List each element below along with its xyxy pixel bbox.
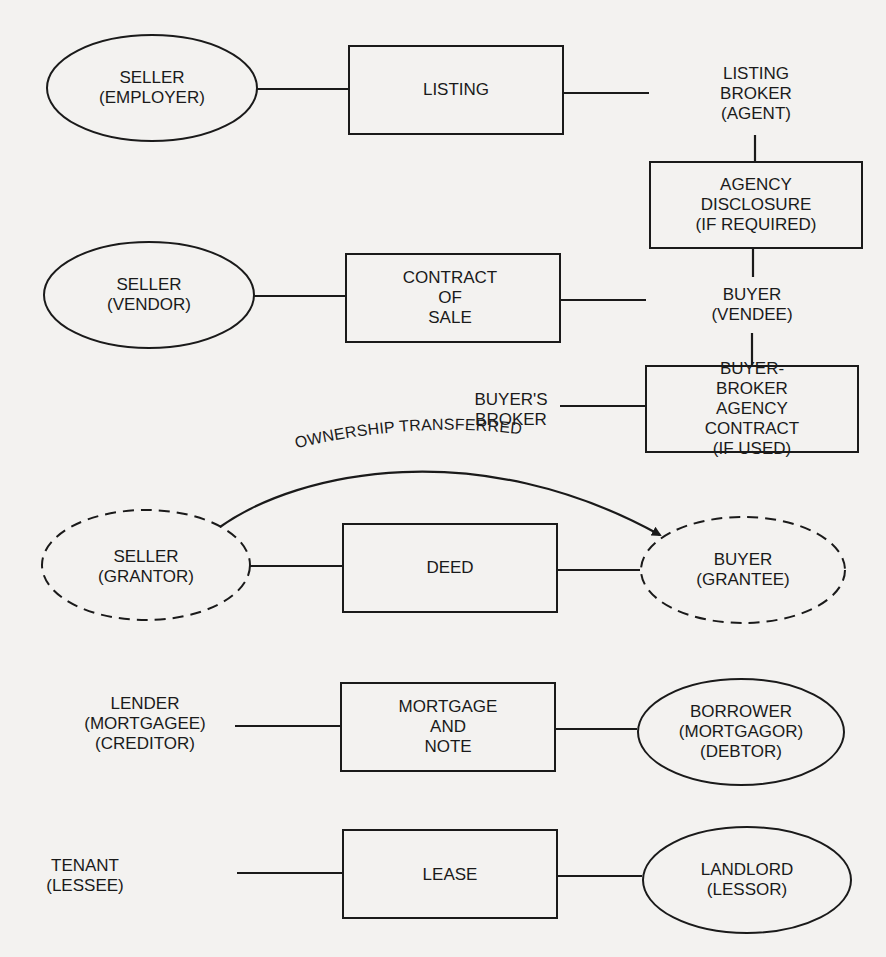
buyer-broker-contract-label: BUYER-BROKER AGENCY CONTRACT (IF USED) xyxy=(685,359,819,459)
listing-label: LISTING xyxy=(423,80,489,100)
diagram-canvas: OWNERSHIP TRANSFERRED SELLER (EMPLOYER) … xyxy=(0,0,886,957)
lender-mortgagee-label: LENDER (MORTGAGEE) (CREDITOR) xyxy=(84,694,206,754)
seller-vendor-label: SELLER (VENDOR) xyxy=(107,275,191,315)
listing-broker-label: LISTING BROKER (AGENT) xyxy=(720,64,792,124)
borrower-mortgagor-label: BORROWER (MORTGAGOR) (DEBTOR) xyxy=(679,702,803,762)
buyers-broker-label: BUYER'S BROKER xyxy=(474,390,547,430)
tenant-lessee-label: TENANT (LESSEE) xyxy=(46,856,123,896)
diagram-lines: OWNERSHIP TRANSFERRED xyxy=(0,0,886,957)
contract-of-sale-label: CONTRACT OF SALE xyxy=(403,268,497,328)
ownership-transferred-arrow xyxy=(220,472,660,535)
seller-employer-label: SELLER (EMPLOYER) xyxy=(99,68,205,108)
seller-grantor-label: SELLER (GRANTOR) xyxy=(98,547,194,587)
lease-label: LEASE xyxy=(423,865,478,885)
landlord-lessor-label: LANDLORD (LESSOR) xyxy=(701,860,794,900)
agency-disclosure-label: AGENCY DISCLOSURE (IF REQUIRED) xyxy=(696,175,817,235)
mortgage-and-note-label: MORTGAGE AND NOTE xyxy=(399,697,498,757)
buyer-vendee-label: BUYER (VENDEE) xyxy=(711,285,792,325)
buyer-grantee-label: BUYER (GRANTEE) xyxy=(696,550,790,590)
deed-label: DEED xyxy=(426,558,473,578)
